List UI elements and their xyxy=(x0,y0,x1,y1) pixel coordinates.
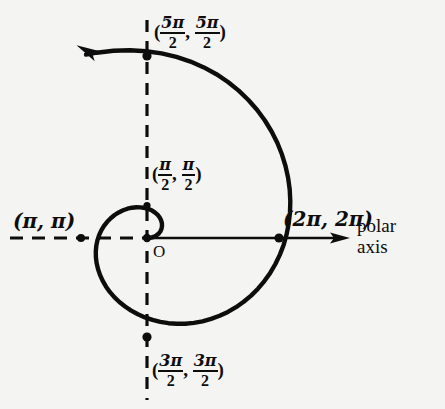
fraction-denominator: 2 xyxy=(193,372,218,389)
fraction-numerator: 5π xyxy=(195,15,220,31)
polar-axis-label-line2: axis xyxy=(357,236,396,257)
point-five-pi-over-two xyxy=(142,51,151,60)
fraction-numerator: π xyxy=(182,157,196,173)
fraction-denominator: 2 xyxy=(158,372,183,389)
comma: , xyxy=(185,21,190,42)
fraction-first: 5π2 xyxy=(160,15,185,51)
fraction-denominator: 2 xyxy=(160,34,185,51)
fraction-numerator: 3π xyxy=(158,353,183,369)
label-five-pi-over-two: (5π2, 5π2) xyxy=(154,16,226,52)
polar-axis-label: polar axis xyxy=(357,215,396,258)
comma: , xyxy=(183,359,188,380)
fraction-denominator: 2 xyxy=(195,34,220,51)
polar-spiral-figure xyxy=(0,0,445,409)
fraction-numerator: π xyxy=(158,157,172,173)
point-two-pi xyxy=(274,233,283,242)
fraction-second: 5π2 xyxy=(195,15,220,51)
fraction-second: π2 xyxy=(182,157,196,193)
point-pi xyxy=(77,234,85,242)
fraction-second: 3π2 xyxy=(193,353,218,389)
fraction-denominator: 2 xyxy=(182,176,196,193)
fraction-denominator: 2 xyxy=(158,176,172,193)
label-pi-pi: (π, π) xyxy=(13,211,75,231)
fraction-numerator: 5π xyxy=(160,15,185,31)
paren-close: ) xyxy=(220,21,226,42)
fraction-numerator: 3π xyxy=(193,353,218,369)
label-pi-over-two: (π2, π2) xyxy=(152,158,202,194)
fraction-first: 3π2 xyxy=(158,353,183,389)
fraction-first: π2 xyxy=(158,157,172,193)
label-three-pi-over-two: (3π2, 3π2) xyxy=(152,354,224,390)
paren-close: ) xyxy=(195,163,201,184)
polar-axis-label-line1: polar xyxy=(357,215,396,236)
point-pole xyxy=(143,234,151,242)
point-pi-over-two xyxy=(143,202,150,209)
comma: , xyxy=(172,163,177,184)
paren-close: ) xyxy=(218,359,224,380)
point-three-pi-over-two xyxy=(142,332,151,341)
origin-label: O xyxy=(153,243,165,260)
